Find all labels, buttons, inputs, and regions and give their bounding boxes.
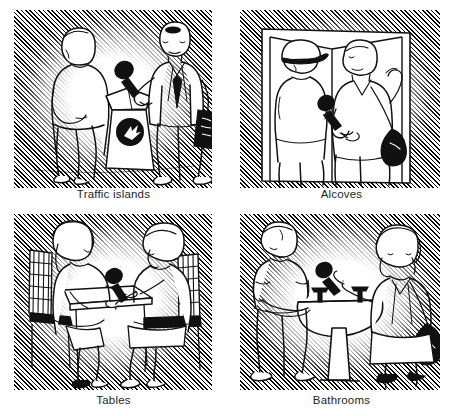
- scene-art-bathrooms: [240, 214, 440, 390]
- arrow-logo: [116, 118, 144, 146]
- caption-bathrooms: Bathrooms: [228, 394, 455, 406]
- panel-traffic-islands: Traffic islands: [0, 0, 227, 208]
- faucet-handles: [312, 287, 368, 302]
- scene-art-tables: [14, 214, 212, 390]
- figure-sheet: Traffic islands: [0, 0, 455, 416]
- panel-alcoves: Alcoves: [228, 0, 455, 208]
- scene-frame-bathrooms: [240, 214, 440, 390]
- scene-frame-tables: [14, 214, 212, 390]
- caption-traffic-islands: Traffic islands: [0, 188, 227, 200]
- panel-bathrooms: Bathrooms: [228, 208, 455, 416]
- caption-tables: Tables: [0, 394, 227, 406]
- scene-art-alcoves: [240, 10, 440, 188]
- panel-tables: Tables: [0, 208, 227, 416]
- scene-frame-traffic-islands: [14, 10, 212, 188]
- scene-frame-alcoves: [240, 10, 440, 188]
- pedestal-sink: [297, 300, 382, 381]
- scene-art-traffic-islands: [14, 10, 212, 188]
- caption-alcoves: Alcoves: [228, 188, 455, 200]
